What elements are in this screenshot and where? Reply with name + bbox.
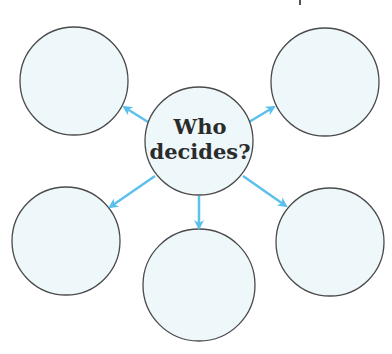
outer-node-top-left: [20, 27, 128, 135]
arrow-to-bottom-right: [243, 176, 286, 206]
arrow-to-bottom-left: [110, 176, 155, 207]
arrow-to-top-left: [124, 107, 148, 122]
cutoff-text-fragment: [299, 0, 301, 5]
center-node-label: Who decides?: [146, 114, 254, 164]
outer-node-bottom-left: [12, 187, 120, 295]
spider-diagram: [0, 0, 392, 354]
outer-node-bottom-center: [143, 229, 255, 341]
center-label-line2: decides?: [146, 139, 254, 164]
outer-node-top-right: [271, 28, 379, 136]
center-label-line1: Who: [146, 114, 254, 139]
outer-node-bottom-right: [276, 188, 384, 296]
